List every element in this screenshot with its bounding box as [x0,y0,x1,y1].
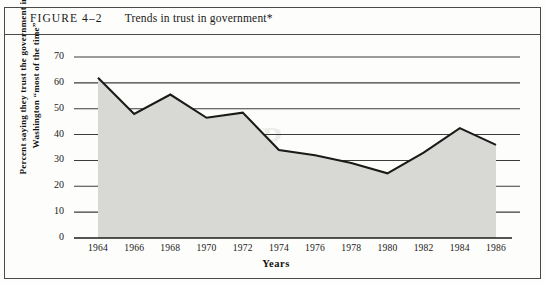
y-tick-label: 60 [38,76,64,87]
x-tick-label: 1986 [476,242,516,253]
x-tick-label: 1966 [114,242,154,253]
y-tick-label: 40 [38,128,64,139]
x-tick-label: 1968 [150,242,190,253]
y-tick-label: 30 [38,153,64,164]
chart-plot-area: Percent saying they trust the government… [0,0,546,283]
x-axis-label: Years [0,258,546,269]
y-tick-label: 50 [38,102,64,113]
x-tick-label: 1964 [78,242,118,253]
y-tick-label: 0 [38,231,64,242]
x-tick-label: 1974 [259,242,299,253]
y-tick-label: 10 [38,205,64,216]
y-tick-label: 70 [38,50,64,61]
x-tick-label: 1978 [331,242,371,253]
x-tick-label: 1972 [223,242,263,253]
chart-svg [0,0,546,283]
x-tick-label: 1982 [404,242,444,253]
x-tick-label: 1970 [187,242,227,253]
x-tick-label: 1976 [295,242,335,253]
x-axis-label-text: Years [262,258,290,269]
y-tick-label: 20 [38,179,64,190]
x-tick-label: 1980 [367,242,407,253]
figure-container: FIGURE 4–2Trends in trust in government*… [0,0,546,283]
x-tick-label: 1984 [440,242,480,253]
